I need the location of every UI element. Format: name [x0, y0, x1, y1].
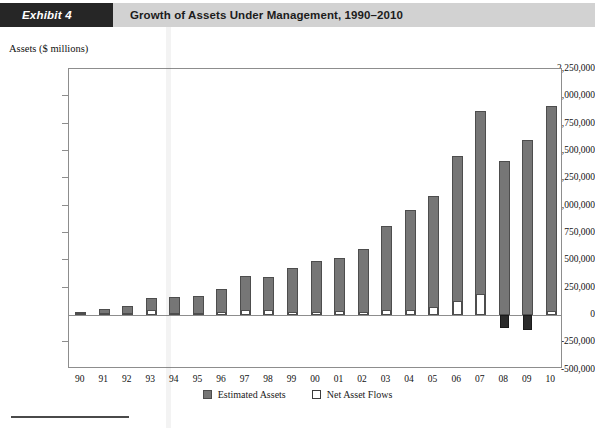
x-axis-tick-label: 93: [146, 374, 156, 384]
exhibit-title: Growth of Assets Under Management, 1990–…: [113, 9, 403, 21]
x-axis-tick-label: 00: [310, 374, 320, 384]
bar-estimated-assets: [475, 111, 486, 315]
y-axis-title: Assets ($ millions): [9, 43, 88, 54]
bar-estimated-assets: [452, 156, 463, 315]
bar-net-asset-flow-positive: [194, 313, 203, 315]
x-axis-tick-label: 98: [263, 374, 273, 384]
bar-net-asset-flow-negative: [523, 315, 532, 330]
exhibit-header: Exhibit 4 Growth of Assets Under Managem…: [0, 3, 595, 27]
x-axis-tick-label: 99: [287, 374, 297, 384]
bar-net-asset-flow-positive: [76, 313, 85, 315]
bar-estimated-assets: [358, 249, 369, 315]
x-axis-tick-label: 91: [99, 374, 109, 384]
bar-net-asset-flow-positive: [147, 310, 156, 315]
bar-net-asset-flow-positive: [453, 301, 462, 315]
bar-estimated-assets: [334, 258, 345, 315]
bar-net-asset-flow-positive: [170, 313, 179, 315]
bar-net-asset-flow-positive: [288, 312, 297, 315]
x-axis-tick-label: 02: [357, 374, 367, 384]
bar-estimated-assets: [216, 289, 227, 315]
legend-item-net-asset-flows: Net Asset Flows: [312, 389, 393, 400]
x-axis-tick-label: 06: [451, 374, 461, 384]
bar-net-asset-flow-positive: [547, 311, 556, 315]
chart-container: Assets ($ millions) 2,250,0002,000,0001,…: [0, 27, 595, 428]
bar-estimated-assets: [405, 210, 416, 315]
x-axis-tick-label: 07: [475, 374, 485, 384]
bar-net-asset-flow-positive: [359, 312, 368, 315]
legend-swatch-estimated-assets-icon: [203, 390, 212, 399]
bar-net-asset-flow-positive: [241, 310, 250, 315]
x-axis-tick-label: 09: [522, 374, 532, 384]
bar-net-asset-flow-positive: [123, 313, 132, 315]
bar-net-asset-flow-positive: [476, 294, 485, 315]
x-axis-tick-label: 03: [381, 374, 391, 384]
exhibit-number-tag: Exhibit 4: [0, 3, 113, 27]
x-axis-tick-label: 08: [498, 374, 508, 384]
x-axis-tick-label: 01: [334, 374, 344, 384]
x-axis-tick-label: 94: [169, 374, 179, 384]
zero-baseline: [69, 315, 561, 316]
bar-net-asset-flow-positive: [217, 312, 226, 315]
legend-swatch-net-asset-flows-icon: [312, 390, 321, 399]
bar-net-asset-flow-positive: [264, 310, 273, 315]
bar-net-asset-flow-positive: [406, 310, 415, 315]
bar-net-asset-flow-negative: [500, 315, 509, 328]
legend-label-net-asset-flows: Net Asset Flows: [327, 389, 393, 400]
bar-estimated-assets: [546, 106, 557, 315]
bar-net-asset-flow-positive: [429, 307, 438, 315]
bar-estimated-assets: [428, 196, 439, 315]
x-axis-tick-label: 97: [240, 374, 250, 384]
bar-estimated-assets: [287, 268, 298, 315]
chart-legend: Estimated Assets Net Asset Flows: [0, 389, 595, 400]
bar-estimated-assets: [311, 261, 322, 315]
x-axis-tick-label: 90: [75, 374, 85, 384]
x-axis-tick-label: 04: [404, 374, 414, 384]
bar-net-asset-flow-positive: [335, 311, 344, 315]
bar-net-asset-flow-positive: [100, 313, 109, 315]
x-axis-tick-label: 10: [545, 374, 555, 384]
legend-label-estimated-assets: Estimated Assets: [218, 389, 286, 400]
bar-net-asset-flow-positive: [382, 310, 391, 315]
source-note-rule: [11, 416, 129, 418]
plot-area: [68, 68, 562, 368]
x-axis-tick-label: 05: [428, 374, 438, 384]
bar-estimated-assets: [499, 161, 510, 315]
x-axis-tick-label: 96: [216, 374, 226, 384]
legend-item-estimated-assets: Estimated Assets: [203, 389, 286, 400]
x-axis-tick-label: 92: [122, 374, 132, 384]
bar-estimated-assets: [522, 140, 533, 315]
x-axis-tick-label: 95: [193, 374, 203, 384]
bar-net-asset-flow-positive: [312, 312, 321, 315]
bar-estimated-assets: [381, 226, 392, 315]
